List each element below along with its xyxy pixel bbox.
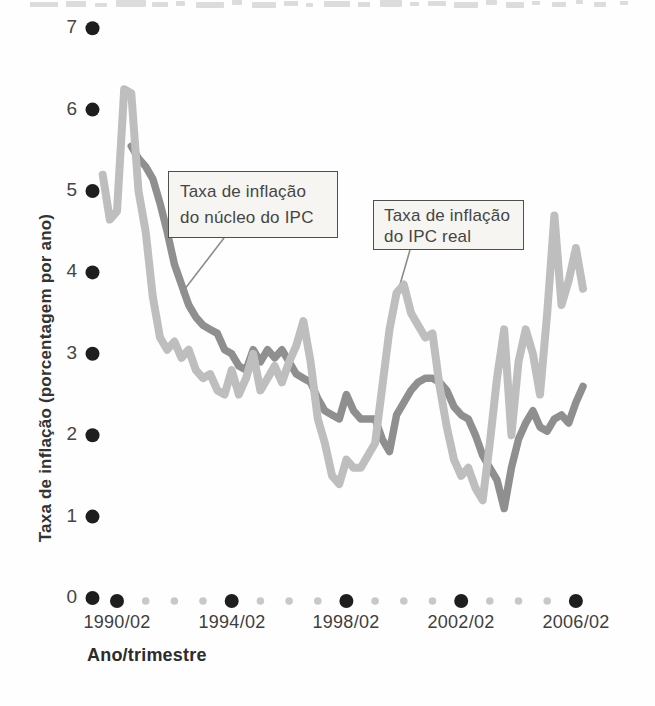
- x-major-tick-dot: [225, 594, 239, 608]
- y-axis-dot: [86, 21, 100, 35]
- nucleo-ipc-label-line1: Taxa de inflação: [180, 179, 337, 205]
- y-axis-title: Taxa de inflação (porcentagem por ano): [36, 214, 56, 542]
- y-tick-label: 0: [43, 586, 77, 608]
- y-tick-label: 6: [43, 98, 77, 120]
- annotation-pointer-line: [181, 238, 224, 294]
- textbook-inflation-figure: 76543210 1990/021994/021998/022002/02200…: [0, 0, 655, 706]
- x-tick-label: 1990/02: [72, 611, 162, 633]
- x-major-tick-dot: [110, 594, 124, 608]
- x-minor-tick-dot: [171, 597, 179, 605]
- y-axis-dot: [86, 184, 100, 198]
- x-minor-tick-dot: [285, 597, 293, 605]
- y-axis-dot: [86, 591, 100, 605]
- x-major-tick-dot: [454, 594, 468, 608]
- ipc-real-label-box: Taxa de inflação do IPC real: [373, 200, 524, 250]
- nucleo-ipc-label-box: Taxa de inflação do núcleo do IPC: [168, 171, 338, 238]
- x-tick-label: 1994/02: [187, 611, 277, 633]
- x-major-tick-dot: [339, 594, 353, 608]
- nucleo-ipc-label-line2: do núcleo do IPC: [180, 205, 337, 231]
- y-axis-dot: [86, 428, 100, 442]
- x-minor-tick-dot: [314, 597, 322, 605]
- x-minor-tick-dot: [543, 597, 551, 605]
- y-axis-dot: [86, 347, 100, 361]
- x-minor-tick-dot: [486, 597, 494, 605]
- y-axis-dot: [86, 510, 100, 524]
- y-axis-dot: [86, 265, 100, 279]
- x-tick-label: 2006/02: [531, 611, 621, 633]
- inflation-chart-canvas: [0, 0, 655, 706]
- x-minor-tick-dot: [515, 597, 523, 605]
- y-axis-dot: [86, 103, 100, 117]
- x-major-tick-dot: [569, 594, 583, 608]
- y-tick-label: 7: [43, 16, 77, 38]
- y-tick-label: 5: [43, 179, 77, 201]
- x-minor-tick-dot: [400, 597, 408, 605]
- ipc-real-label-line1: Taxa de inflação: [384, 205, 523, 226]
- x-tick-label: 2002/02: [416, 611, 506, 633]
- x-axis-title: Ano/trimestre: [87, 645, 207, 666]
- x-minor-tick-dot: [429, 597, 437, 605]
- x-minor-tick-dot: [257, 597, 265, 605]
- ipc-real-line: [103, 89, 583, 500]
- x-minor-tick-dot: [142, 597, 150, 605]
- x-minor-tick-dot: [371, 597, 379, 605]
- x-minor-tick-dot: [199, 597, 207, 605]
- x-tick-label: 1998/02: [301, 611, 391, 633]
- ipc-real-label-line2: do IPC real: [384, 226, 523, 247]
